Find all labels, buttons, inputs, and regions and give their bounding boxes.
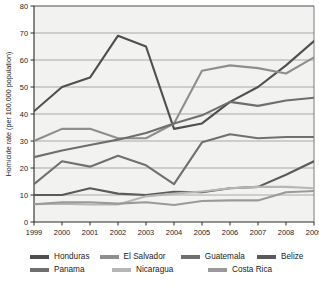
- x-tick-label: 2009: [306, 228, 319, 237]
- legend-label: Costa Rica: [232, 265, 272, 274]
- legend-item-guatemala[interactable]: Guatemala: [181, 252, 249, 261]
- legend-swatch-icon: [112, 268, 131, 272]
- legend-label: Nicaragua: [136, 265, 173, 274]
- y-tick-label: 40: [20, 110, 28, 119]
- legend-row: PanamaNicaraguaCosta Rica: [30, 263, 315, 276]
- y-tick-label: 50: [20, 83, 28, 92]
- x-tick-label: 2000: [54, 228, 70, 237]
- y-tick-label: 0: [24, 218, 28, 227]
- legend-item-belize[interactable]: Belize: [257, 252, 307, 261]
- y-tick-label: 30: [20, 137, 28, 146]
- x-tick-label: 2006: [222, 228, 238, 237]
- legend-label: Panama: [54, 265, 85, 274]
- legend-swatch-icon: [208, 268, 227, 272]
- legend-label: El Salvador: [124, 252, 166, 261]
- legend-item-el-salvador[interactable]: El Salvador: [100, 252, 173, 261]
- x-tick-label: 2002: [110, 228, 126, 237]
- x-tick-label: 2003: [138, 228, 154, 237]
- homicide-rate-line-chart: 0102030405060708019992000200120022003200…: [0, 0, 319, 292]
- y-tick-label: 80: [20, 2, 28, 11]
- legend-swatch-icon: [30, 255, 49, 259]
- y-tick-label: 60: [20, 56, 28, 65]
- legend-label: Honduras: [54, 252, 90, 261]
- legend-swatch-icon: [100, 255, 119, 259]
- y-tick-label: 70: [20, 29, 28, 38]
- x-tick-label: 2008: [278, 228, 294, 237]
- x-tick-label: 1999: [26, 228, 42, 237]
- y-axis-title: Homicide rate (per 100,000 population): [4, 52, 13, 177]
- legend-row: HondurasEl SalvadorGuatemalaBelize: [30, 250, 315, 263]
- legend-item-honduras[interactable]: Honduras: [30, 252, 92, 261]
- x-tick-label: 2007: [250, 228, 266, 237]
- legend-label: Belize: [281, 252, 303, 261]
- chart-legend: HondurasEl SalvadorGuatemalaBelizePanama…: [30, 250, 315, 276]
- y-tick-label: 10: [20, 191, 28, 200]
- legend-item-nicaragua[interactable]: Nicaragua: [112, 265, 200, 274]
- legend-label: Guatemala: [205, 252, 245, 261]
- x-tick-label: 2005: [194, 228, 210, 237]
- chart-plot-area: 0102030405060708019992000200120022003200…: [0, 0, 319, 292]
- y-tick-label: 20: [20, 164, 28, 173]
- x-tick-label: 2004: [166, 228, 182, 237]
- legend-item-panama[interactable]: Panama: [30, 265, 104, 274]
- legend-swatch-icon: [257, 255, 276, 259]
- x-tick-label: 2001: [82, 228, 98, 237]
- legend-swatch-icon: [181, 255, 200, 259]
- legend-item-costa-rica[interactable]: Costa Rica: [208, 265, 290, 274]
- legend-swatch-icon: [30, 268, 49, 272]
